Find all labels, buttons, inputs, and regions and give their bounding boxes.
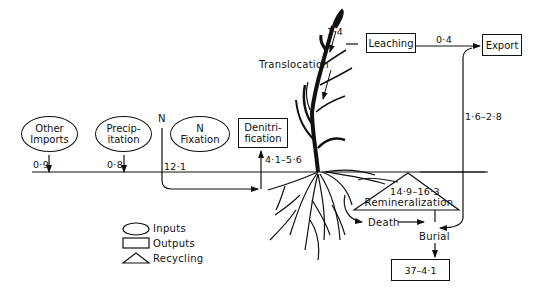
precipitation-label-1: Precip- — [106, 123, 140, 134]
legend-outputs-label: Outputs — [153, 238, 195, 249]
remineralization-value: 14·9–16·3 — [385, 186, 445, 197]
burial-store-box: 37–4·1 — [391, 259, 450, 281]
legend-inputs-label: Inputs — [153, 223, 186, 234]
burial-label: Burial — [419, 231, 450, 242]
n-fixation-label-2: Fixation — [180, 134, 219, 145]
leaching-value: 0·4 — [436, 34, 452, 45]
export-value: 1·6–2·8 — [465, 111, 502, 122]
legend-oval-icon — [123, 223, 149, 235]
legend-rect-icon — [123, 238, 149, 248]
denitrification-label-1: Denitri- — [244, 122, 281, 133]
denitrification-value: 4·1–5·6 — [265, 154, 302, 165]
input-precipitation: Precip-itation — [95, 116, 152, 152]
other-imports-value: 0·9 — [33, 159, 49, 170]
translocation-value: 1·4 — [327, 26, 343, 37]
input-n-fixation: NFixation — [170, 116, 230, 152]
roots-icon — [268, 170, 385, 260]
n-fixation-value: 12·1 — [164, 161, 186, 172]
export-return-line — [463, 48, 472, 218]
other-imports-label-1: Other — [30, 123, 68, 134]
legend-triangle-icon — [123, 253, 149, 263]
precipitation-value: 0·8 — [107, 159, 123, 170]
death-label: Death — [368, 217, 400, 228]
output-export: Export — [482, 34, 522, 56]
n-fixation-label-1: N — [180, 123, 219, 134]
precipitation-label-2: itation — [106, 134, 140, 145]
n-label: N — [158, 113, 166, 124]
translocation-label: Translocation — [259, 59, 329, 70]
remineralization-label: Remineralization — [364, 197, 454, 208]
translocation-arrow-2 — [323, 70, 331, 99]
other-imports-label-2: Imports — [30, 134, 68, 145]
output-leaching: Leaching — [366, 33, 416, 53]
denitrification-label-2: fication — [244, 133, 281, 144]
legend-recycling-label: Recycling — [153, 253, 204, 264]
export-to-burial — [440, 218, 463, 228]
plant-icon — [296, 10, 352, 172]
output-denitrification: Denitri-fication — [238, 118, 288, 148]
input-other-imports: OtherImports — [21, 116, 78, 152]
